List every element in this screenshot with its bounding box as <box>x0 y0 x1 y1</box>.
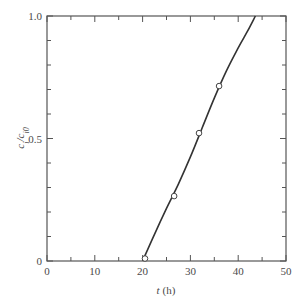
data-point-marker <box>196 130 202 136</box>
x-tick-labels: 01020304050 <box>44 265 292 277</box>
fitted-curve <box>143 16 256 261</box>
data-point-marker <box>216 83 222 89</box>
x-axis-var: t <box>157 284 161 296</box>
chart: 01020304050 00.51.0 t(h) ci/ci0 <box>0 0 302 304</box>
x-tick-label: 50 <box>281 265 293 277</box>
data-point-marker <box>142 256 148 262</box>
x-axis-unit: (h) <box>163 284 176 297</box>
y-tick-label: 0 <box>37 255 43 267</box>
x-tick-label: 30 <box>185 265 197 277</box>
x-tick-label: 20 <box>137 265 149 277</box>
data-point-marker <box>171 193 177 199</box>
y-tick-labels: 00.51.0 <box>28 10 42 267</box>
y-tick-label: 1.0 <box>28 10 42 22</box>
x-tick-label: 10 <box>89 265 101 277</box>
plot-frame <box>47 16 286 261</box>
x-tick-label: 0 <box>44 265 50 277</box>
axis-ticks <box>47 16 286 261</box>
x-tick-label: 40 <box>233 265 245 277</box>
x-axis-label: t(h) <box>157 284 176 297</box>
